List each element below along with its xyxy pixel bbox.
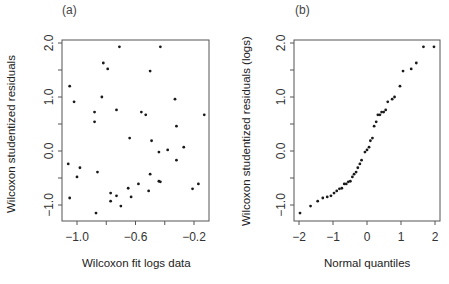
data-point [137,183,140,186]
data-point [109,200,112,203]
data-point [356,166,359,169]
data-point [166,149,169,152]
data-point [159,180,162,183]
data-point [415,62,418,65]
data-point [109,192,112,195]
data-point [382,111,385,114]
data-point [159,45,162,48]
panel-b-xtick-label: 1 [398,230,405,244]
data-point [379,113,382,116]
data-point [340,187,343,190]
panel-b-ytick-label: −1.0 [274,193,288,217]
data-point [100,96,103,99]
data-point [375,120,378,123]
data-point [386,100,389,103]
data-point [353,173,356,176]
data-point [360,159,363,162]
data-point [175,159,178,162]
data-point [338,187,341,190]
data-point [79,166,82,169]
panel-b: (b) −2−1012−1.00.01.02.0 Wilcoxon studen… [224,0,449,284]
data-point [335,190,338,193]
data-point [351,176,354,179]
panel-a-xtick-label: −0.6 [124,230,148,244]
data-point [150,139,153,142]
panel-a-ytick-label: 0.0 [42,142,56,159]
data-point [410,68,413,71]
data-point [115,109,118,112]
data-point [366,149,369,152]
data-point [144,113,147,116]
data-point [158,151,161,154]
data-point [309,205,312,208]
data-point [371,137,374,140]
data-point [115,194,118,197]
panel-b-ylabel: Wilcoxon studentized residuals (logs) [240,36,252,226]
data-point [402,70,405,73]
data-point [369,139,372,142]
data-point [102,62,105,65]
data-point [368,146,371,149]
data-point [358,163,361,166]
data-point [127,187,130,190]
data-point [326,196,329,199]
data-point [95,212,98,215]
panel-a-ylabel: Wilcoxon studentized residuals [5,55,17,213]
panel-a-xtick-label: −0.2 [182,230,206,244]
data-point [191,187,194,190]
data-point [73,100,76,103]
panel-a-ytick-label: 1.0 [42,88,56,105]
panel-b-plot-frame [294,40,440,221]
panel-b-ytick-label: 2.0 [274,34,288,51]
data-point [182,146,185,149]
data-point [345,183,348,186]
panel-b-xtick-label: 2 [432,230,439,244]
data-point [149,173,152,176]
panel-a-ytick-label: 2.0 [42,34,56,51]
data-point [333,192,336,195]
panel-b-xtick-label: 0 [364,230,371,244]
qq-plot-b: −2−1012−1.00.01.02.0 [224,0,449,284]
data-point [118,45,121,48]
scatter-plot-a: −1.0−0.6−0.2−1.00.01.02.0 [0,0,225,284]
data-point [106,68,109,71]
data-point [149,70,152,73]
data-point [130,196,133,199]
data-point [197,183,200,186]
data-point [433,45,436,48]
data-point [299,212,302,215]
data-point [96,171,99,174]
data-point [399,85,402,88]
panel-b-xtick-label: −2 [292,230,306,244]
data-point [119,205,122,208]
panel-a-xlabel: Wilcoxon fit logs data [82,257,191,269]
panel-a-ytick-label: −1.0 [42,193,56,217]
panel-b-xlabel: Normal quantiles [324,257,410,269]
data-point [364,151,367,154]
data-point [355,171,358,174]
data-point [174,98,177,101]
data-point [147,190,150,193]
data-point [128,137,131,140]
data-point [422,45,425,48]
data-point [175,125,178,128]
panel-b-ytick-label: 1.0 [274,88,288,105]
data-point [330,194,333,197]
data-point [76,176,79,179]
panel-a-xtick-label: −1.0 [65,230,89,244]
data-point [321,197,324,200]
data-point [203,113,206,116]
panel-b-xtick-label: −1 [326,230,340,244]
data-point [316,200,319,203]
data-point [67,163,70,166]
panel-a-plot-frame [62,40,209,221]
data-point [68,85,71,88]
data-point [391,98,394,101]
data-point [349,180,352,183]
data-point [373,125,376,128]
data-point [393,96,396,99]
panel-a: (a) −1.0−0.6−0.2−1.00.01.02.0 Wilcoxon s… [0,0,225,284]
data-point [93,111,96,114]
panel-b-ytick-label: 0.0 [274,142,288,159]
data-point [68,197,71,200]
